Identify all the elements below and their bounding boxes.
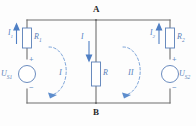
source-label-us1: US1 <box>1 70 12 80</box>
current-i-head <box>86 55 91 61</box>
resistor-label-r1-sub: 1 <box>39 37 42 43</box>
junction-node-b <box>95 102 97 104</box>
polarity-us1-minus: − <box>29 84 34 92</box>
current-label-i-text: I <box>81 32 84 41</box>
node-label-a: A <box>93 5 100 14</box>
current-label-i1: I1 <box>8 29 13 39</box>
resistor-r1-body <box>23 28 32 48</box>
resistor-r-body <box>92 62 101 86</box>
polarity-us1-plus: + <box>29 56 34 64</box>
mesh-loop-1-arc <box>49 47 66 95</box>
circuit-diagram: A B R1 R R2 I1 I I2 US1 US2 + − + − I II <box>0 0 196 126</box>
source-us2-circle <box>162 66 179 83</box>
source-label-us2-sub: S2 <box>185 74 191 80</box>
polarity-us2-plus: + <box>172 56 177 64</box>
resistor-label-r: R <box>103 69 108 79</box>
resistor-label-r2: R2 <box>177 33 185 43</box>
polarity-us2-minus: − <box>172 84 177 92</box>
resistor-r2-body <box>166 28 175 48</box>
current-label-i: I <box>81 33 84 43</box>
resistor-label-r1: R1 <box>34 33 42 43</box>
current-i1-head <box>14 24 19 30</box>
resistor-label-r-text: R <box>103 68 108 77</box>
node-label-b: B <box>93 108 99 117</box>
mesh-loop-1 <box>49 47 66 95</box>
mesh-label-2: II <box>128 68 134 77</box>
current-label-i1-sub: 1 <box>11 34 14 39</box>
resistor-label-r2-sub: 2 <box>182 37 185 43</box>
wire-group <box>27 20 170 103</box>
current-i2-head <box>156 24 161 30</box>
source-label-us2: US2 <box>179 70 190 80</box>
current-label-i2-sub: 2 <box>153 34 156 39</box>
source-label-us1-sub: S1 <box>7 74 13 80</box>
mesh-label-1: I <box>59 68 62 77</box>
source-us1-circle <box>19 66 36 83</box>
current-label-i2: I2 <box>150 29 155 39</box>
junction-node-a <box>95 19 97 21</box>
